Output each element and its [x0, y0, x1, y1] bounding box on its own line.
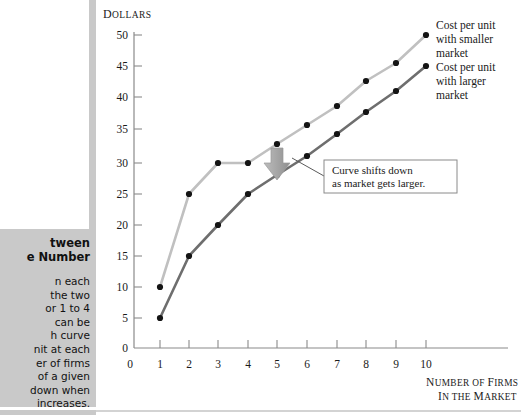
data-point — [363, 78, 369, 84]
legend-item-larger-market: Cost per unit with larger market — [436, 61, 496, 101]
data-point — [423, 32, 429, 38]
x-axis-title-line2: IN THE MARKET — [438, 390, 517, 402]
data-point — [215, 222, 221, 228]
legend-label-smaller-line2: with smaller — [436, 33, 493, 45]
y-axis-ticks — [134, 35, 142, 318]
data-point — [304, 122, 310, 128]
x-tick-label: 10 — [420, 358, 432, 370]
x-axis-title-line1: NUMBER OF FIRMS — [426, 376, 518, 388]
figure-bottom-rule — [96, 410, 521, 412]
legend-label-smaller-line3: market — [436, 47, 469, 59]
annotation-line1: Curve shifts down — [332, 164, 413, 176]
y-axis-title: DOLLARS — [103, 7, 151, 21]
caption-body: n each the two or 1 to 4 can be h curve … — [0, 275, 90, 411]
x-tick-label: 8 — [363, 358, 369, 370]
data-point — [186, 253, 192, 259]
caption-body-line: or 1 to 4 — [0, 302, 90, 316]
caption-heading-line: e Number — [0, 250, 90, 264]
origin-label: 0 — [127, 358, 133, 370]
caption-body-line: h curve — [0, 329, 90, 343]
legend-label-larger-line3: market — [436, 89, 469, 101]
caption-heading-line: tween — [0, 236, 90, 250]
x-tick-label: 4 — [245, 358, 251, 370]
data-point — [363, 109, 369, 115]
annotation-leader-line — [292, 158, 324, 176]
caption-rail: tween e Number n each the two or 1 to 4 … — [0, 0, 96, 415]
x-tick-label: 2 — [186, 358, 192, 370]
caption-heading: tween e Number — [0, 236, 90, 264]
data-point — [274, 141, 280, 147]
caption-rail-bottom-rule — [0, 407, 96, 410]
x-tick-label: 1 — [157, 358, 163, 370]
x-tick-label: 7 — [334, 358, 340, 370]
y-tick-label: 20 — [117, 219, 129, 231]
x-tick-label: 9 — [393, 358, 399, 370]
x-tick-label: 5 — [274, 358, 280, 370]
data-point — [186, 191, 192, 197]
caption-body-line: the two — [0, 289, 90, 303]
y-tick-label: 50 — [117, 29, 129, 41]
x-tick-label: 6 — [304, 358, 310, 370]
y-tick-label: 10 — [117, 281, 129, 293]
y-tick-label: 0 — [122, 342, 128, 354]
data-point — [423, 63, 429, 69]
data-point — [215, 160, 221, 166]
data-point — [245, 160, 251, 166]
data-point — [393, 88, 399, 94]
caption-body-line: of a given — [0, 370, 90, 384]
caption-body-line: n each — [0, 275, 90, 289]
legend-label-larger-line2: with larger — [436, 75, 486, 88]
y-tick-label: 40 — [117, 91, 129, 103]
annotation-line2: as market gets larger. — [332, 177, 426, 189]
x-tick-label: 3 — [215, 358, 221, 370]
figure-root: tween e Number n each the two or 1 to 4 … — [0, 0, 521, 415]
data-point — [304, 153, 310, 159]
y-tick-label: 5 — [122, 312, 128, 324]
caption-body-line: down when — [0, 384, 90, 398]
data-point — [334, 131, 340, 137]
y-tick-label: 35 — [117, 123, 129, 135]
data-point — [393, 60, 399, 66]
caption-body-line: nit at each — [0, 343, 90, 357]
legend-label-smaller-line1: Cost per unit — [436, 19, 496, 32]
data-point — [245, 191, 251, 197]
y-tick-label: 15 — [117, 250, 129, 262]
data-point — [334, 103, 340, 109]
chart-area: DOLLARS 0 5 10 15 20 2 — [96, 0, 521, 415]
caption-block: tween e Number n each the two or 1 to 4 … — [0, 229, 96, 415]
caption-rail-top-blank — [0, 0, 96, 229]
cost-per-unit-line-chart: DOLLARS 0 5 10 15 20 2 — [96, 0, 521, 415]
caption-body-line: can be — [0, 316, 90, 330]
x-axis-ticks — [160, 340, 426, 348]
y-tick-label: 25 — [117, 188, 129, 200]
shift-down-arrow-icon — [264, 148, 290, 180]
y-tick-label: 30 — [117, 157, 129, 169]
data-point — [157, 284, 163, 290]
caption-body-line: er of firms — [0, 357, 90, 371]
legend-item-smaller-market: Cost per unit with smaller market — [436, 19, 496, 59]
data-point — [157, 315, 163, 321]
y-tick-label: 45 — [117, 60, 129, 72]
legend-label-larger-line1: Cost per unit — [436, 61, 496, 74]
